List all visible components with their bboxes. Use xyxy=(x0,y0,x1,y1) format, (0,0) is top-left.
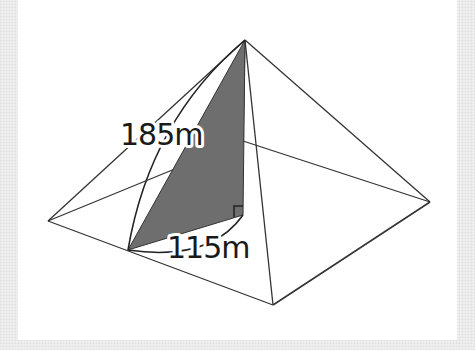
half-base-label: 115m xyxy=(167,230,249,265)
pyramid-diagram: 185m 115m xyxy=(0,0,475,350)
back-right-base-edge xyxy=(243,141,430,202)
front-right-base-edge xyxy=(273,202,430,305)
front-lateral-edge xyxy=(245,40,273,305)
slant-height-label: 185m xyxy=(120,117,202,152)
right-lateral-edge xyxy=(245,40,430,202)
